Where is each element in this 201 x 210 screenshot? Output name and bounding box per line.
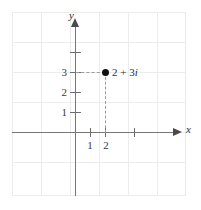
x-tick-label-2: 2 (99, 140, 113, 151)
y-axis-label: y (69, 10, 74, 21)
y-tick-4 (70, 52, 81, 53)
x-axis-arrow-icon (173, 128, 182, 136)
gridline-vertical (99, 12, 100, 196)
gridline-horizontal (12, 102, 186, 103)
point-annotation-imaginary-unit: i (135, 66, 138, 78)
y-tick-label-3: 3 (53, 67, 67, 78)
x-tick-label-1: 1 (83, 140, 97, 151)
x-axis-label: x (186, 124, 191, 135)
gridline-vertical (12, 12, 13, 196)
gridline-horizontal (12, 162, 186, 163)
x-tick-1 (90, 128, 91, 137)
x-axis-line (12, 132, 175, 133)
y-tick-1 (70, 112, 81, 113)
point-annotation-real: 2 + 3 (112, 66, 135, 78)
y-tick-label-1: 1 (53, 107, 67, 118)
gridline-vertical (157, 12, 158, 196)
x-tick-3 (134, 128, 135, 137)
gridline-horizontal (12, 195, 186, 196)
gridline-vertical (70, 12, 71, 196)
y-tick-label-2: 2 (53, 87, 67, 98)
complex-plane-figure: 3 2 1 1 2 x y 2 + 3i (0, 0, 201, 210)
gridline-vertical (41, 12, 42, 196)
gridline-vertical (185, 12, 186, 196)
guide-line-vertical (105, 72, 106, 133)
point-annotation-label: 2 + 3i (112, 67, 138, 78)
y-tick-2 (70, 92, 81, 93)
plotted-point (102, 69, 109, 76)
gridline-vertical (128, 12, 129, 196)
gridline-horizontal (12, 42, 186, 43)
grid (12, 12, 186, 196)
gridline-horizontal (12, 12, 186, 13)
guide-line-horizontal (76, 72, 105, 73)
